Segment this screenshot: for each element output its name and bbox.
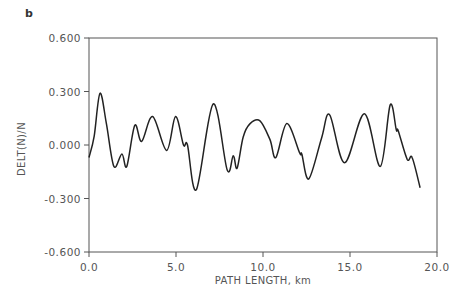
x-axis-ticks: 0.05.010.015.020.0	[80, 252, 450, 273]
x-tick-label: 15.0	[337, 261, 362, 273]
line-chart: 0.6000.3000.000-0.300-0.600 0.05.010.015…	[0, 0, 468, 303]
y-axis-ticks: 0.6000.3000.000-0.300-0.600	[44, 32, 89, 258]
x-tick-label: 10.0	[250, 261, 275, 273]
y-tick-label: 0.300	[48, 86, 81, 98]
x-tick-label: 0.0	[80, 261, 98, 273]
y-tick-label: -0.300	[44, 193, 81, 205]
y-tick-label: 0.000	[48, 139, 81, 151]
x-axis-title: PATH LENGTH, km	[215, 275, 312, 286]
x-tick-label: 5.0	[167, 261, 185, 273]
data-series-line	[89, 93, 420, 190]
x-tick-label: 20.0	[424, 261, 449, 273]
y-axis-title: DELT(N)/N	[16, 122, 27, 176]
y-tick-label: 0.600	[48, 32, 81, 44]
y-tick-label: -0.600	[44, 246, 81, 258]
